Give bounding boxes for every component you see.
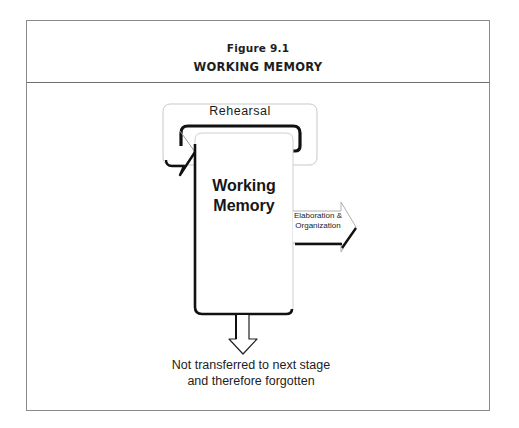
elaboration-label-line1: Elaboration & xyxy=(292,211,344,221)
rehearsal-label: Rehearsal xyxy=(190,104,290,118)
forgotten-label-line1: Not transferred to next stage xyxy=(140,357,362,373)
elaboration-label: Elaboration & Organization xyxy=(292,211,344,231)
working-memory-label: Working Memory xyxy=(196,176,292,216)
forgotten-label: Not transferred to next stage and theref… xyxy=(140,357,362,389)
forgotten-label-line2: and therefore forgotten xyxy=(140,373,362,389)
working-memory-label-line1: Working xyxy=(196,176,292,196)
working-memory-label-line2: Memory xyxy=(196,196,292,216)
working-memory-box xyxy=(195,133,293,314)
elaboration-label-line2: Organization xyxy=(292,221,344,231)
forgotten-arrow xyxy=(229,315,257,354)
